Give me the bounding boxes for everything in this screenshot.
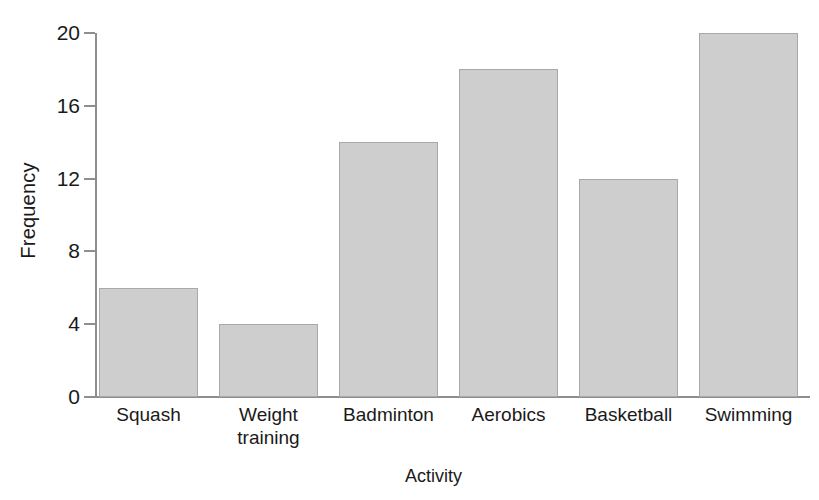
y-axis-tick: [84, 178, 95, 180]
bar: [579, 179, 678, 397]
y-axis-tick-label-wrap: 4: [32, 313, 80, 334]
y-axis-tick-label: 0: [40, 386, 80, 407]
x-axis-tick-label: Basketball: [567, 403, 690, 426]
y-axis-tick-label-wrap: 20: [32, 22, 80, 43]
x-axis-tick-label: Badminton: [327, 403, 450, 426]
x-axis-title: Activity: [0, 466, 819, 487]
y-axis-tick-label-wrap: 0: [32, 386, 80, 407]
y-axis-tick: [84, 396, 95, 398]
y-axis-tick-label-wrap: 12: [32, 168, 80, 189]
y-axis-tick: [84, 32, 95, 34]
x-axis-title-text: Activity: [405, 466, 462, 487]
y-axis-tick-label-wrap: 8: [32, 240, 80, 261]
plot-area: [95, 33, 810, 397]
bar-chart: Frequency 048121620 SquashWeight trainin…: [0, 0, 819, 500]
y-axis-tick: [84, 105, 95, 107]
x-axis-tick-label: Squash: [87, 403, 210, 426]
x-axis-tick-label: Weight training: [207, 403, 330, 449]
y-axis-tick-label-wrap: 16: [32, 95, 80, 116]
y-axis-tick: [84, 323, 95, 325]
bar: [99, 288, 198, 397]
x-axis-tick-label: Swimming: [687, 403, 810, 426]
y-axis-tick-label: 12: [40, 168, 80, 189]
y-axis-tick-label: 4: [40, 313, 80, 334]
x-axis-tick-label: Aerobics: [447, 403, 570, 426]
y-axis-tick: [84, 250, 95, 252]
bar: [699, 33, 798, 397]
y-axis-title: Frequency: [0, 0, 56, 420]
bar: [219, 324, 318, 397]
bar: [459, 69, 558, 397]
y-axis-tick-label: 8: [40, 240, 80, 261]
y-axis-tick-label: 20: [40, 22, 80, 43]
y-axis-tick-label: 16: [40, 95, 80, 116]
bar: [339, 142, 438, 397]
